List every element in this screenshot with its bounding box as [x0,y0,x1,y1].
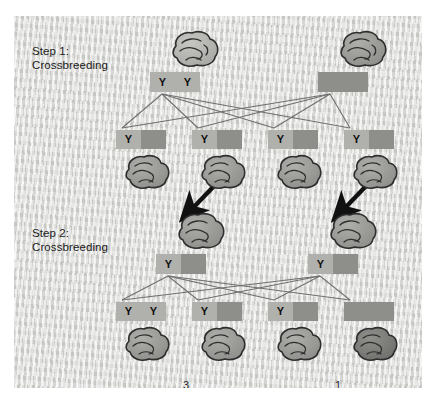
allele-box-f1-3-b [293,130,318,149]
allele-box-p-right-1 [318,72,343,92]
allele-box-f2-3-a: Y [268,302,293,321]
allele-box-p-left-1: Y [150,72,175,92]
diagram-stage: Step 1: Crossbreeding Step 2: Crossbreed… [14,16,422,388]
ratio-recessive: 1 (25%) [316,364,360,388]
pea-p-right [341,32,386,67]
allele-box-f1-4-b [369,130,394,149]
step-2-label: Step 2: Crossbreeding [32,226,108,254]
arrow-left-icon [191,184,216,210]
pea-f1-2 [202,156,245,189]
allele-box-s2-right-b [333,254,358,274]
pea-f1-3 [278,156,321,189]
allele-box-p-right-2 [343,72,368,92]
allele-box-p-left-2: Y [175,72,200,92]
pea-s2-left [179,214,224,249]
allele-box-f1-4-a: Y [344,130,369,149]
allele-box-s2-right-a: Y [308,254,333,274]
allele-box-f1-3-a: Y [268,130,293,149]
allele-box-f2-1-a: Y [116,302,141,321]
allele-box-f2-3-b [293,302,318,321]
pea-f2-3 [278,328,321,361]
allele-box-f1-2-a: Y [192,130,217,149]
pea-f2-1 [126,328,169,361]
allele-box-f1-2-b [217,130,242,149]
pea-s2-right [331,214,376,249]
ratio-dominant: 3 (75%) [164,364,208,388]
ratio-dominant-count: 3 [164,378,208,388]
arrow-right-icon [343,184,368,210]
step2-cross-lines [122,276,350,300]
allele-box-f2-2-a: Y [192,302,217,321]
pea-f2-2 [202,328,245,361]
step1-cross-lines [122,94,350,128]
genetics-diagram-panel: Step 1: Crossbreeding Step 2: Crossbreed… [14,16,422,388]
allele-box-f2-1-b: Y [141,302,166,321]
allele-box-f1-1-b [141,130,166,149]
step-1-label: Step 1: Crossbreeding [32,44,108,72]
pea-f1-1 [126,156,169,189]
allele-box-f2-4-b [369,302,394,321]
pea-f2-4 [354,328,397,361]
pea-f1-4 [354,156,397,189]
allele-box-f2-2-b [217,302,242,321]
allele-box-s2-left-a: Y [156,254,181,274]
ratio-recessive-count: 1 [316,378,360,388]
allele-box-f1-1-a: Y [116,130,141,149]
allele-box-s2-left-b [181,254,206,274]
allele-box-f2-4-a [344,302,369,321]
pea-p-left [173,32,218,67]
